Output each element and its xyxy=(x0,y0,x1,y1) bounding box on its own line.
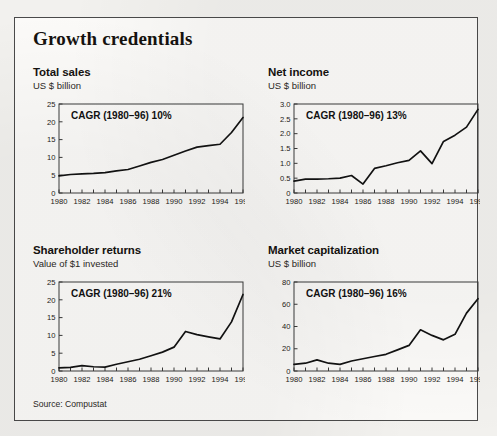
x-tick-label: 1986 xyxy=(120,197,137,206)
x-tick-label: 1996 xyxy=(235,197,245,206)
x-tick-label: 1980 xyxy=(286,375,303,384)
cagr-annotation: CAGR (1980–96) 16% xyxy=(306,288,407,299)
x-tick-label: 1982 xyxy=(74,375,91,384)
line-chart-svg: 0204060801980198219841986198819901992199… xyxy=(268,273,480,391)
x-tick-label: 1994 xyxy=(447,197,464,206)
source-note: Source: Compustat xyxy=(33,399,107,409)
y-tick-label: 1.0 xyxy=(280,159,291,168)
y-tick-label: 80 xyxy=(282,278,290,287)
y-tick-label: 10 xyxy=(47,331,55,340)
y-tick-label: 40 xyxy=(282,322,290,331)
x-tick-label: 1980 xyxy=(51,197,68,206)
x-tick-label: 1984 xyxy=(97,197,114,206)
x-tick-label: 1986 xyxy=(355,375,372,384)
y-tick-label: 2.0 xyxy=(280,129,291,138)
x-tick-label: 1996 xyxy=(235,375,245,384)
chart-title: Shareholder returns xyxy=(33,244,245,257)
x-tick-label: 1980 xyxy=(51,375,68,384)
x-tick-label: 1994 xyxy=(212,375,229,384)
y-tick-label: 5 xyxy=(51,349,55,358)
series-line xyxy=(59,294,243,367)
chart-title: Total sales xyxy=(33,66,245,79)
x-tick-label: 1982 xyxy=(309,197,326,206)
series-line xyxy=(59,118,243,176)
line-chart-svg: 00.51.01.52.02.53.0198019821984198619881… xyxy=(268,95,480,213)
chart-title: Market capitalization xyxy=(268,244,480,257)
x-tick-label: 1982 xyxy=(309,375,326,384)
chart-plot-net-income: 00.51.01.52.02.53.0198019821984198619881… xyxy=(268,95,480,213)
x-tick-label: 1984 xyxy=(97,375,114,384)
chart-panel-total-sales: Total sales US $ billion 051015202519801… xyxy=(33,66,245,213)
x-tick-label: 1990 xyxy=(166,197,183,206)
x-tick-label: 1986 xyxy=(355,197,372,206)
x-tick-label: 1988 xyxy=(143,375,160,384)
y-tick-label: 15 xyxy=(47,313,55,322)
x-tick-label: 1994 xyxy=(212,197,229,206)
x-tick-label: 1990 xyxy=(401,197,418,206)
y-tick-label: 15 xyxy=(47,135,55,144)
growth-credentials-card: Growth credentials Total sales US $ bill… xyxy=(14,17,478,421)
chart-plot-market-capitalization: 0204060801980198219841986198819901992199… xyxy=(268,273,480,391)
y-tick-label: 20 xyxy=(47,296,55,305)
chart-plot-total-sales: 0510152025198019821984198619881990199219… xyxy=(33,95,245,213)
chart-plot-shareholder-returns: 0510152025198019821984198619881990199219… xyxy=(33,273,245,391)
x-tick-label: 1990 xyxy=(401,375,418,384)
x-tick-label: 1992 xyxy=(424,197,441,206)
y-tick-label: 20 xyxy=(282,344,290,353)
chart-panel-market-capitalization: Market capitalization US $ billion 02040… xyxy=(268,244,480,391)
x-tick-label: 1982 xyxy=(74,197,91,206)
x-tick-label: 1990 xyxy=(166,375,183,384)
chart-subtitle: US $ billion xyxy=(33,80,245,91)
x-tick-label: 1984 xyxy=(332,375,349,384)
page: Growth credentials Total sales US $ bill… xyxy=(0,0,497,436)
x-tick-label: 1996 xyxy=(470,197,480,206)
y-tick-label: 1.5 xyxy=(280,144,291,153)
y-tick-label: 2.5 xyxy=(280,115,291,124)
x-tick-label: 1994 xyxy=(447,375,464,384)
cagr-annotation: CAGR (1980–96) 10% xyxy=(71,110,172,121)
chart-panel-shareholder-returns: Shareholder returns Value of $1 invested… xyxy=(33,244,245,391)
x-tick-label: 1996 xyxy=(470,375,480,384)
chart-title: Net income xyxy=(268,66,480,79)
y-tick-label: 60 xyxy=(282,300,290,309)
chart-subtitle: US $ billion xyxy=(268,80,480,91)
x-tick-label: 1984 xyxy=(332,197,349,206)
chart-subtitle: US $ billion xyxy=(268,258,480,269)
line-chart-svg: 0510152025198019821984198619881990199219… xyxy=(33,95,245,213)
x-tick-label: 1980 xyxy=(286,197,303,206)
line-chart-svg: 0510152025198019821984198619881990199219… xyxy=(33,273,245,391)
x-tick-label: 1988 xyxy=(143,197,160,206)
cagr-annotation: CAGR (1980–96) 13% xyxy=(306,110,407,121)
x-tick-label: 1988 xyxy=(378,197,395,206)
chart-subtitle: Value of $1 invested xyxy=(33,258,245,269)
y-tick-label: 20 xyxy=(47,118,55,127)
x-tick-label: 1988 xyxy=(378,375,395,384)
chart-panel-net-income: Net income US $ billion 00.51.01.52.02.5… xyxy=(268,66,480,213)
page-title: Growth credentials xyxy=(33,28,193,50)
x-tick-label: 1992 xyxy=(189,375,206,384)
y-tick-label: 3.0 xyxy=(280,100,291,109)
x-tick-label: 1992 xyxy=(189,197,206,206)
y-tick-label: 5 xyxy=(51,171,55,180)
y-tick-label: 0.5 xyxy=(280,174,291,183)
y-tick-label: 25 xyxy=(47,278,55,287)
y-tick-label: 10 xyxy=(47,153,55,162)
y-tick-label: 25 xyxy=(47,100,55,109)
cagr-annotation: CAGR (1980–96) 21% xyxy=(71,288,172,299)
x-tick-label: 1992 xyxy=(424,375,441,384)
series-line xyxy=(294,299,478,365)
x-tick-label: 1986 xyxy=(120,375,137,384)
